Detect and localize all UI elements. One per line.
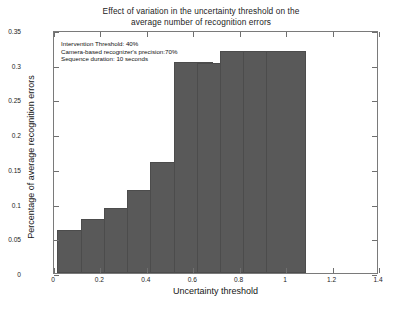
annotation-line-2: Camera-based recognizer's precision:70% bbox=[61, 48, 177, 56]
y-axis-tick bbox=[54, 67, 59, 68]
x-axis-tick bbox=[379, 32, 380, 37]
x-axis-tick bbox=[100, 268, 101, 273]
x-axis-tick bbox=[100, 32, 101, 37]
bar-series bbox=[54, 32, 377, 273]
x-axis-tick bbox=[193, 32, 194, 37]
x-axis-tick bbox=[379, 268, 380, 273]
y-tick-label: 0.2 bbox=[0, 132, 21, 139]
x-axis-tick bbox=[147, 32, 148, 37]
y-tick-label: 0.05 bbox=[0, 236, 21, 243]
chart-title-line-1: Effect of variation in the uncertainty t… bbox=[103, 6, 300, 16]
x-axis-title: Uncertainty threshold bbox=[53, 286, 378, 296]
x-tick-label: 0.6 bbox=[188, 276, 197, 283]
x-axis-tick bbox=[240, 268, 241, 273]
y-axis-tick bbox=[54, 101, 59, 102]
x-tick-label: 0.2 bbox=[95, 276, 104, 283]
chart-title: Effect of variation in the uncertainty t… bbox=[0, 6, 402, 28]
x-axis-tick bbox=[333, 32, 334, 37]
x-tick-label: 1.4 bbox=[373, 276, 382, 283]
chart-figure: Effect of variation in the uncertainty t… bbox=[0, 0, 402, 311]
x-axis-tick bbox=[54, 268, 55, 273]
x-axis-tick bbox=[193, 268, 194, 273]
x-tick-label: 1.2 bbox=[327, 276, 336, 283]
x-axis-tick bbox=[333, 268, 334, 273]
x-axis-tick bbox=[147, 268, 148, 273]
y-axis-tick bbox=[54, 206, 59, 207]
x-tick-label: 0.4 bbox=[141, 276, 150, 283]
y-tick-label: 0.1 bbox=[0, 201, 21, 208]
y-axis-tick bbox=[372, 101, 377, 102]
x-tick-label: 0 bbox=[51, 276, 55, 283]
chart-title-line-2: average number of recognition errors bbox=[0, 17, 402, 28]
y-axis-tick bbox=[372, 240, 377, 241]
annotation-line-1: Intervention Threshold: 40% bbox=[61, 40, 177, 48]
y-axis-tick bbox=[372, 32, 377, 33]
y-axis-tick bbox=[372, 136, 377, 137]
bar bbox=[266, 51, 305, 273]
annotation-textbox: Intervention Threshold: 40%Camera-based … bbox=[61, 40, 177, 63]
y-axis-tick bbox=[54, 171, 59, 172]
y-axis-tick bbox=[372, 67, 377, 68]
y-axis-tick bbox=[372, 206, 377, 207]
x-axis-tick bbox=[54, 32, 55, 37]
y-axis-tick bbox=[54, 136, 59, 137]
y-tick-label: 0 bbox=[0, 271, 21, 278]
x-axis-tick bbox=[286, 32, 287, 37]
plot-area: Intervention Threshold: 40%Camera-based … bbox=[53, 31, 378, 274]
y-axis-tick bbox=[54, 240, 59, 241]
x-tick-label: 1 bbox=[283, 276, 287, 283]
y-tick-label: 0.35 bbox=[0, 28, 21, 35]
y-axis-title: Percentage of average recognition errors bbox=[26, 42, 36, 272]
y-tick-label: 0.3 bbox=[0, 62, 21, 69]
x-axis-tick bbox=[286, 268, 287, 273]
y-axis-tick bbox=[372, 171, 377, 172]
y-tick-label: 0.15 bbox=[0, 166, 21, 173]
x-axis-tick bbox=[240, 32, 241, 37]
x-tick-label: 0.8 bbox=[234, 276, 243, 283]
y-tick-label: 0.25 bbox=[0, 97, 21, 104]
annotation-line-3: Sequence duration: 10 seconds bbox=[61, 55, 177, 63]
